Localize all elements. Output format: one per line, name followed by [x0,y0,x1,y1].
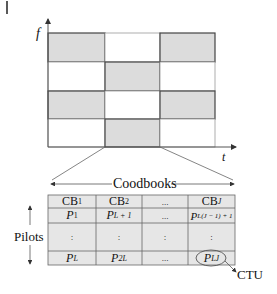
header-cell-ellipsis: ... [142,195,188,208]
pilot-cell-ellipsis: ... [142,208,188,223]
pilot-cell-pl1: PL + 1 [96,208,142,223]
header-cell-cb2: CB2 [96,195,142,208]
header-cell-cbj: CBJ [188,195,235,208]
pilot-cell-p1: P1 [48,208,96,223]
pilot-cell-p2l: P2L [96,251,142,265]
dots-cell-4: : [188,223,235,251]
t-axis-label: t [222,151,225,163]
dots-cell-3: : [142,223,188,251]
pilot-cell-ellipsis-last: ... [142,251,188,265]
f-axis-label: f [36,27,40,41]
zoom-line-left [52,147,105,180]
ctu-label: CTU [237,268,263,281]
header-cell-cb1: CB1 [48,195,96,208]
pilots-label: Pilots [14,230,44,243]
pilot-cell-pl: PL [48,251,96,265]
dots-cell-1: : [48,223,96,251]
pilot-cell-plj1: PL(J − 1) + 1 [188,208,235,223]
dots-cell-2: : [96,223,142,251]
time-frequency-grid [48,33,215,147]
codebooks-label: Coodbooks [113,177,177,191]
pilot-cell-plj: PLJ [188,251,235,265]
